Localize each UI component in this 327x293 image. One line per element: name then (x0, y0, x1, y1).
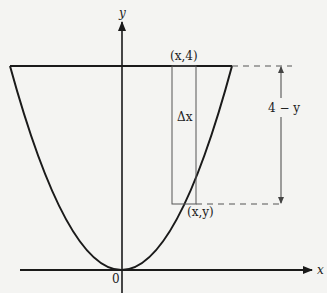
parabola-diagram: y x 0 (x,4) (x,y) Δx 4 − y (0, 0, 327, 293)
origin-label: 0 (112, 272, 120, 286)
x-axis-label: x (317, 263, 324, 277)
strip-width-label: Δx (177, 110, 193, 124)
diagram-canvas: y x 0 (x,4) (x,y) Δx 4 − y (0, 0, 327, 293)
y-axis-label: y (118, 6, 126, 20)
top-point-label: (x,4) (170, 49, 198, 63)
height-label: 4 − y (268, 101, 300, 115)
strip-rectangle (172, 66, 196, 204)
curve-point-label: (x,y) (187, 205, 214, 219)
parabola-curve (10, 66, 232, 270)
